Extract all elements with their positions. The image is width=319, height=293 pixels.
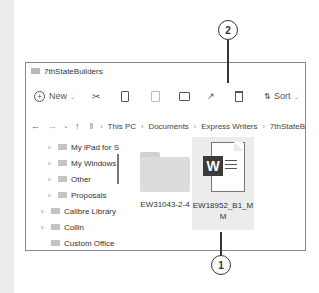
folder-icon	[31, 68, 40, 74]
sidebar-item-proposals[interactable]: › Proposals	[48, 188, 107, 202]
folder-icon	[58, 176, 67, 182]
chevron-right-icon: ›	[48, 176, 58, 183]
sidebar-item-label: Custom Office	[64, 239, 115, 248]
chevron-right-icon: ›	[41, 224, 51, 231]
chevron-right-icon: ›	[194, 123, 196, 130]
up-button[interactable]: ↑	[75, 115, 80, 137]
copy-icon	[121, 91, 129, 102]
sidebar-item-label: Calibre Library	[64, 207, 116, 216]
file-name-line: EW18952_B1_M	[193, 200, 253, 211]
recent-locations-button[interactable]: ⌄	[63, 115, 69, 137]
folder-icon	[51, 208, 60, 214]
new-label: New	[49, 91, 67, 101]
chevron-down-icon: ⌄	[70, 93, 75, 100]
navigation-pane: › My iPad for S › My Windows › Other › P…	[26, 139, 126, 250]
file-name-line: M	[193, 211, 253, 222]
folder-icon	[51, 224, 60, 230]
folder-icon	[58, 192, 67, 198]
folder-icon	[58, 144, 67, 150]
word-document-icon: W	[203, 142, 243, 192]
share-icon: ↗	[207, 91, 215, 101]
window-title: 7thStateBuilders	[44, 67, 103, 76]
address-bar: ← → ⌄ ↑ › This PC › Documents › Express …	[26, 115, 305, 137]
new-button[interactable]: + New ⌄	[34, 81, 75, 111]
folder-icon	[51, 240, 60, 246]
folder-icon	[140, 152, 190, 192]
sidebar-item-my-ipad[interactable]: › My iPad for S	[48, 140, 119, 154]
arrow-right-icon: →	[48, 121, 57, 131]
paste-icon	[151, 91, 160, 102]
chevron-down-icon: ⌄	[63, 122, 69, 130]
breadcrumb-item[interactable]: Documents	[148, 122, 188, 131]
chevron-right-icon: ›	[48, 160, 58, 167]
callout-2: 2	[218, 20, 238, 40]
folder-item[interactable]: EW31043-2-4	[134, 147, 196, 223]
sidebar-item-label: My iPad for S	[71, 143, 119, 152]
breadcrumb-item[interactable]: Express Writers	[201, 122, 257, 131]
back-button[interactable]: ←	[31, 115, 40, 137]
background-strip	[0, 0, 14, 293]
chevron-right-icon: ›	[41, 208, 51, 215]
rename-button[interactable]	[179, 81, 190, 111]
chevron-right-icon: ›	[263, 123, 265, 130]
sidebar-item-label: Collin	[64, 223, 84, 232]
sidebar-item-custom-office[interactable]: Custom Office	[51, 236, 115, 250]
arrow-left-icon: ←	[31, 121, 40, 131]
sidebar-item-label: Proposals	[71, 191, 107, 200]
file-list: EW31043-2-4 W EW18952_B1_M M	[126, 139, 305, 250]
sidebar-item-other[interactable]: › Other	[48, 172, 91, 186]
chevron-down-icon: ⌄	[294, 93, 299, 100]
delete-icon	[235, 91, 243, 102]
new-icon: +	[34, 91, 45, 102]
folder-icon	[90, 123, 93, 129]
sidebar-scrollbar[interactable]	[117, 154, 119, 184]
sidebar-item-collin[interactable]: › Collin	[41, 220, 84, 234]
word-document-item[interactable]: W EW18952_B1_M M	[192, 137, 254, 230]
share-button[interactable]: ↗	[207, 81, 215, 111]
breadcrumb[interactable]: › This PC › Documents › Express Writers …	[90, 118, 305, 134]
sort-icon: ⇅	[264, 92, 271, 101]
sidebar-item-calibre-library[interactable]: › Calibre Library	[41, 204, 116, 218]
delete-button[interactable]	[235, 81, 243, 111]
copy-button[interactable]	[121, 81, 129, 111]
title-bar: 7thStateBuilders	[26, 63, 305, 79]
chevron-right-icon: ›	[100, 123, 102, 130]
cut-icon: ✂	[92, 91, 100, 102]
chevron-right-icon: ›	[48, 144, 58, 151]
sort-button[interactable]: ⇅ Sort ⌄	[264, 81, 299, 111]
rename-icon	[179, 92, 190, 101]
folder-icon	[58, 160, 67, 166]
sidebar-item-label: Other	[71, 175, 91, 184]
arrow-up-icon: ↑	[75, 121, 80, 131]
chevron-right-icon: ›	[48, 192, 58, 199]
command-bar: + New ⌄ ✂ ↗ ⇅ Sort ⌄	[26, 81, 305, 111]
file-name: EW18952_B1_M M	[193, 200, 253, 222]
sidebar-item-my-windows[interactable]: › My Windows	[48, 156, 116, 170]
paste-button[interactable]	[151, 81, 160, 111]
cut-button[interactable]: ✂	[92, 81, 100, 111]
breadcrumb-item[interactable]: 7thStateB	[270, 122, 305, 131]
sidebar-item-label: My Windows	[71, 159, 116, 168]
callout-1: 1	[211, 255, 231, 275]
breadcrumb-item[interactable]: This PC	[108, 122, 136, 131]
forward-button[interactable]: →	[48, 115, 57, 137]
file-explorer-window: 7thStateBuilders + New ⌄ ✂ ↗ ⇅ Sort ⌄ ← …	[25, 62, 306, 251]
file-name: EW31043-2-4	[140, 200, 189, 209]
sort-label: Sort	[274, 91, 291, 101]
chevron-right-icon: ›	[141, 123, 143, 130]
word-badge: W	[203, 156, 223, 176]
callout-line	[227, 40, 229, 83]
